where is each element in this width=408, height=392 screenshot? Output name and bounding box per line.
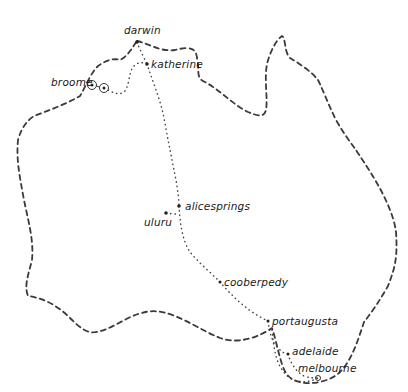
katherine-dot <box>145 62 149 66</box>
alicesprings-dot <box>177 204 181 208</box>
route-darwin-katherine <box>137 42 147 64</box>
route-broome-katherine <box>104 63 147 94</box>
label-melbourne: melbourne <box>298 362 357 374</box>
label-alicesprings: alicesprings <box>185 200 250 212</box>
cooberpedy-dot <box>219 281 222 284</box>
darwin-dot <box>135 40 139 44</box>
label-cooberpedy: cooberpedy <box>224 276 289 288</box>
label-darwin: darwin <box>124 24 161 36</box>
route-alicesprings-portaugusta <box>179 206 268 321</box>
adelaide-dot <box>287 353 290 356</box>
australia-route-map: darwin katherine broome alicesprings ulu… <box>0 0 408 392</box>
portaugusta-dot <box>267 320 270 323</box>
label-uluru: uluru <box>144 216 172 228</box>
label-adelaide: adelaide <box>292 345 339 357</box>
route-uluru-alicesprings <box>166 213 178 214</box>
label-portaugusta: portaugusta <box>271 315 338 327</box>
label-broome: broome <box>51 76 93 88</box>
uluru-dot <box>164 211 168 215</box>
route-katherine-alicesprings <box>147 64 179 206</box>
label-katherine: katherine <box>151 58 203 70</box>
